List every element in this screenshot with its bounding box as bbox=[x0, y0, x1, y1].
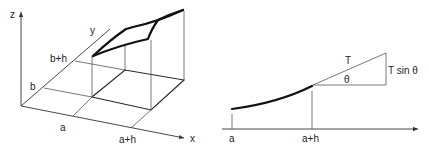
surface-edge-upper bbox=[93, 10, 183, 56]
x-tick-a-right: a bbox=[229, 133, 235, 144]
x-axis-label: x bbox=[190, 133, 195, 144]
x-tick-ah-right: a+h bbox=[302, 133, 319, 144]
y-bh-line bbox=[75, 61, 125, 70]
left-3d-diagram: z y x b+h b a a+h bbox=[10, 9, 195, 145]
diagram-canvas: z y x b+h b a a+h T θ T sin θ a a+h bbox=[0, 0, 429, 149]
x-axis bbox=[21, 106, 184, 138]
vertical-component-label: T sin θ bbox=[388, 65, 418, 76]
base-rectangle bbox=[92, 70, 184, 110]
x-tick-ah: a+h bbox=[119, 134, 136, 145]
string-curve bbox=[232, 86, 312, 109]
right-string-diagram: T θ T sin θ a a+h bbox=[222, 53, 418, 144]
x-ah-line bbox=[131, 110, 151, 128]
x-tick-a: a bbox=[60, 122, 66, 133]
y-tick-b: b bbox=[30, 81, 36, 92]
y-axis bbox=[21, 29, 110, 106]
y-axis-label: y bbox=[90, 25, 95, 36]
y-b-line bbox=[44, 88, 92, 97]
angle-label: θ bbox=[344, 74, 350, 85]
x-a-line bbox=[73, 97, 92, 116]
y-tick-bh: b+h bbox=[50, 53, 67, 64]
tension-label: T bbox=[345, 55, 351, 66]
z-axis-label: z bbox=[10, 9, 15, 20]
